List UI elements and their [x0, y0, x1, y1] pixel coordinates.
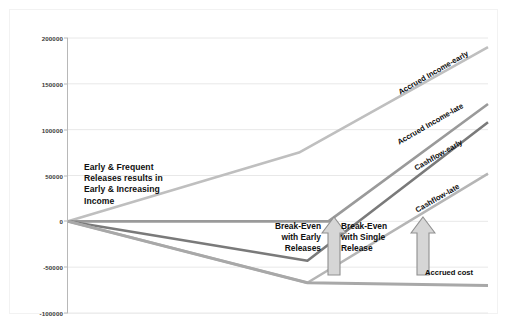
callout-single-line-1: Break-Even [341, 221, 413, 232]
annotation-early-frequent: Early & Frequent Releases results in Ear… [84, 162, 204, 207]
image-frame: 200000 150000 100000 50000 0 -50000 -100… [9, 9, 498, 314]
chart-screenshot: 200000 150000 100000 50000 0 -50000 -100… [0, 0, 509, 327]
annotation-line-2: Releases results in [84, 173, 204, 184]
callout-early-line-1: Break-Even [249, 221, 321, 232]
y-tick-label-200000: 200000 [42, 35, 63, 42]
callout-early-line-2: with Early [249, 232, 321, 243]
callout-single-line-2: with Single [341, 232, 413, 243]
y-tick-label-150000: 150000 [42, 80, 63, 87]
y-tick-label-minus50000: -50000 [43, 264, 63, 271]
annotation-line-3: Early & Increasing [84, 184, 204, 195]
series-label-accrued-cost: Accrued cost [425, 268, 473, 277]
y-tick-label-minus100000: -100000 [40, 310, 63, 317]
y-tick-label-0: 0 [59, 218, 63, 225]
annotation-line-4: Income [84, 196, 204, 207]
y-tick-label-100000: 100000 [42, 126, 63, 133]
callout-early-line-3: Releases [249, 243, 321, 254]
y-tick-label-50000: 50000 [45, 172, 63, 179]
callout-break-even-early: Break-Even with Early Releases [249, 221, 321, 254]
up-arrow-icon-single [410, 216, 436, 276]
callout-break-even-single: Break-Even with Single Release [341, 221, 413, 254]
annotation-line-1: Early & Frequent [84, 162, 204, 173]
callout-single-line-3: Release [341, 243, 413, 254]
